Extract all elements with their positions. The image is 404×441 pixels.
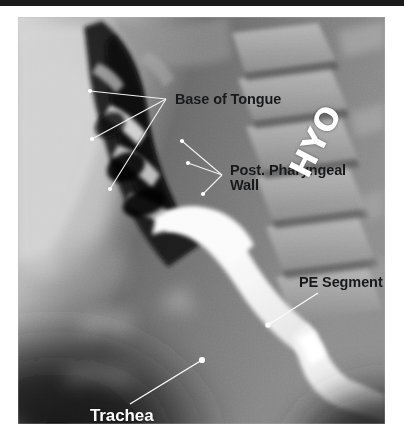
annotation-label-base-of-tongue: Base of Tongue: [175, 92, 281, 107]
leader-group-base-of-tongue: [88, 89, 166, 191]
annotation-label-trachea: Trachea: [90, 407, 154, 424]
annotation-label-line-2: Wall: [230, 177, 259, 193]
top-rule-divider: [0, 0, 404, 6]
page-root: Base of Tongue Post. PharyngealWall PE S…: [0, 0, 404, 441]
annotation-overlay: Base of Tongue Post. PharyngealWall PE S…: [18, 17, 385, 424]
annotation-label-post-pharyngeal-wall: Post. PharyngealWall: [230, 163, 346, 193]
leader-group-trachea: [130, 357, 205, 404]
annotation-label-line-1: Post. Pharyngeal: [230, 162, 346, 178]
leader-group-pe-segment: [265, 293, 318, 328]
annotation-label-pe-segment: PE Segment: [299, 275, 383, 290]
radiograph-image: Base of Tongue Post. PharyngealWall PE S…: [18, 17, 385, 424]
leader-line-layer: [18, 17, 385, 424]
leader-group-post-pharyngeal-wall: [180, 139, 222, 196]
